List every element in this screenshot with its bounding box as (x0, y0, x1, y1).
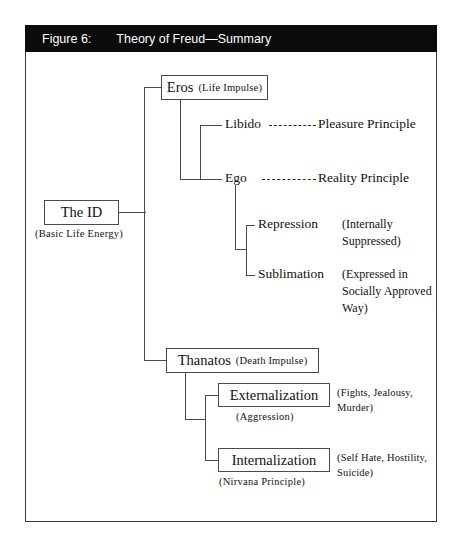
trunk-vertical-line (144, 87, 145, 361)
figure-number-label: Figure 6: (42, 32, 91, 46)
figure-title-text: Theory of Freud—Summary (116, 32, 271, 46)
node-eros-paren-label: (Life Impulse) (198, 82, 262, 93)
node-the-id-caption: (Basic Life Energy) (35, 228, 123, 239)
node-libido-label: Libido (225, 116, 261, 132)
branch-to-libido-line (200, 125, 222, 126)
eros-substem-to-branch-line (180, 179, 200, 180)
ego-reality-dashed-connector (262, 179, 316, 180)
eros-substem-vertical-line (180, 100, 181, 180)
ego-substem-to-branch-line (235, 249, 246, 250)
node-reality-principle-label: Reality Principle (318, 170, 409, 186)
branch-to-externalization-line (205, 395, 218, 396)
node-externalization-note: (Fights, Jealousy, Murder) (337, 385, 413, 415)
node-externalization[interactable]: Externalization (218, 383, 330, 407)
branch-to-ego-line (200, 179, 222, 180)
node-pleasure-principle-label: Pleasure Principle (318, 116, 416, 132)
id-to-trunk-line (119, 212, 146, 213)
node-the-id[interactable]: The ID (44, 200, 119, 225)
node-internalization[interactable]: Internalization (218, 448, 330, 472)
figure-title-bar: Figure 6: Theory of Freud—Summary (25, 25, 437, 52)
node-thanatos-label: Thanatos (178, 352, 231, 369)
node-externalization-caption: (Aggression) (236, 411, 294, 422)
libido-pleasure-dashed-connector (269, 125, 316, 126)
trunk-to-thanatos-line (144, 360, 166, 361)
node-internalization-label: Internalization (232, 452, 317, 469)
repression-sublimation-branch-vertical-line (246, 225, 247, 276)
node-sublimation-note: (Expressed in Socially Approved Way) (342, 266, 432, 317)
thanatos-substem-to-branch-line (185, 419, 205, 420)
node-repression-note: (Internally Suppressed) (342, 216, 401, 250)
node-ego-label: Ego (225, 170, 247, 186)
node-eros-label: Eros (167, 79, 194, 96)
node-the-id-label: The ID (61, 204, 102, 221)
figure-screenshot: Figure 6: Theory of Freud—Summary (0, 0, 461, 555)
externalization-internalization-branch-vertical-line (205, 395, 206, 461)
branch-to-repression-line (246, 225, 255, 226)
thanatos-substem-vertical-line (185, 373, 186, 420)
node-thanatos[interactable]: Thanatos (Death Impulse) (166, 348, 319, 373)
libido-ego-branch-vertical-line (200, 125, 201, 180)
diagram-canvas: The ID (Basic Life Energy) Eros (Life Im… (25, 52, 437, 522)
trunk-to-eros-line (144, 87, 161, 88)
node-externalization-label: Externalization (230, 387, 319, 404)
branch-to-internalization-line (205, 460, 218, 461)
node-internalization-note: (Self Hate, Hostility, Suicide) (337, 450, 427, 480)
node-thanatos-paren-label: (Death Impulse) (236, 355, 308, 366)
node-eros[interactable]: Eros (Life Impulse) (161, 75, 268, 100)
node-repression-label: Repression (258, 216, 318, 232)
branch-to-sublimation-line (246, 275, 255, 276)
node-internalization-caption: (Nirvana Principle) (219, 476, 305, 487)
node-sublimation-label: Sublimation (258, 266, 324, 282)
ego-substem-vertical-line (235, 185, 236, 250)
